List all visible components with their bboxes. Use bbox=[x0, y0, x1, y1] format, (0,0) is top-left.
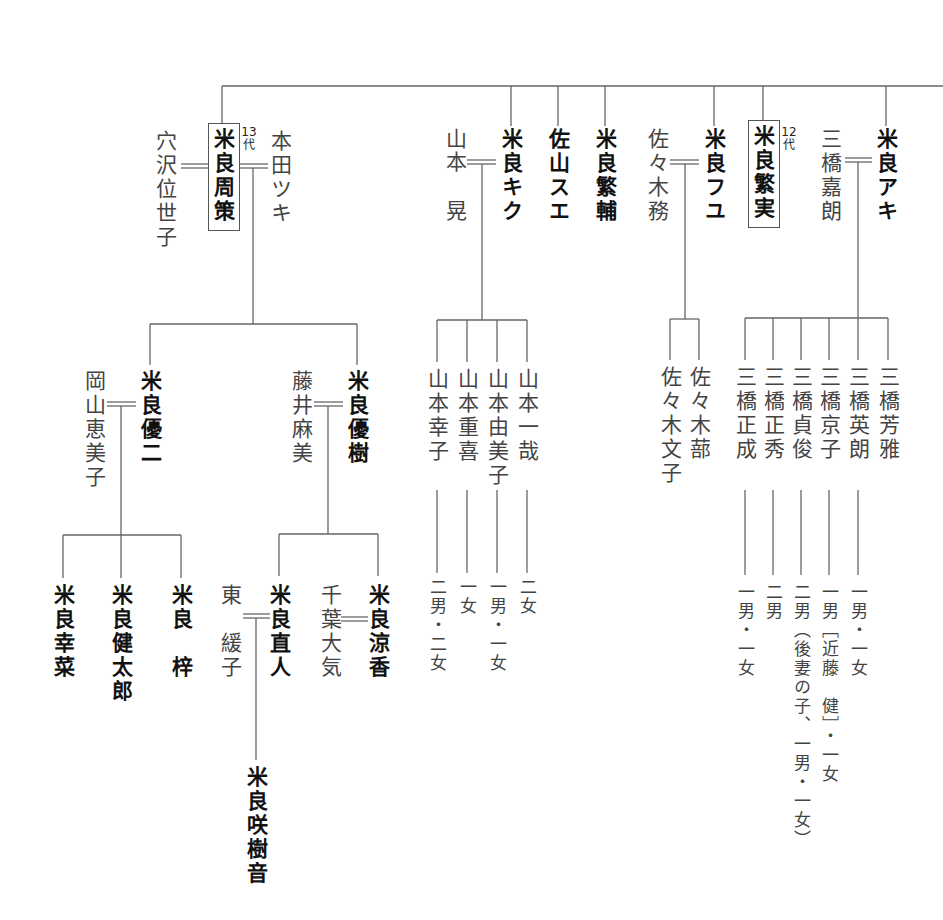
person-mera-shigesuke: 米良繁輔 bbox=[593, 128, 617, 224]
person-sasaki-tsutomu: 佐々木務 bbox=[645, 128, 669, 224]
person-honda-tsuki: 本田ツキ bbox=[268, 130, 292, 226]
person-yamamoto-akira: 山本 晃 bbox=[443, 128, 467, 223]
person-yamamoto-sachiko: 山本幸子 bbox=[425, 368, 449, 464]
person-mitsuhashi-yoshiro: 三橋嘉朗 bbox=[818, 128, 842, 224]
person-fujii-asami: 藤井麻美 bbox=[289, 370, 313, 466]
note-mitsuhashi-masanari: 一男・一女 bbox=[735, 583, 755, 678]
note-yamamoto-sachiko: 二男・二女 bbox=[427, 578, 447, 673]
person-mera-azusa: 米良 梓 bbox=[169, 584, 193, 680]
generation-label-12: 12代 bbox=[781, 126, 797, 152]
person-yamamoto-yumiko: 山本由美子 bbox=[485, 368, 509, 488]
person-yamamoto-kazuya: 山本一哉 bbox=[515, 368, 539, 464]
family-tree-chart: 穴沢位世子 米良周策 13代 本田ツキ 山本 晃 米良キク 佐山スエ 米良繁輔 … bbox=[0, 0, 943, 920]
person-mitsuhashi-masanari: 三橋正成 bbox=[733, 366, 757, 462]
person-mitsuhashi-masahide: 三橋正秀 bbox=[761, 366, 785, 462]
person-okayama-emiko: 岡山恵美子 bbox=[82, 370, 106, 490]
note-mitsuhashi-hideaki: 一男・一女 bbox=[848, 583, 868, 678]
person-mera-kentaro: 米良健太郎 bbox=[109, 584, 133, 704]
note-mitsuhashi-kyoko: 一男［近藤 健］・一女 bbox=[819, 583, 839, 784]
note-yamamoto-yumiko: 一男・一女 bbox=[487, 578, 507, 673]
person-azuma-yuruko: 東 緩子 bbox=[218, 584, 242, 680]
person-mera-aki: 米良アキ bbox=[874, 128, 898, 224]
person-mitsuhashi-sadatoshi: 三橋貞俊 bbox=[789, 366, 813, 462]
note-mitsuhashi-sadatoshi: 二男（後妻の子、一男・一女） bbox=[791, 583, 811, 849]
person-sasaki-shitomi: 佐々木蔀 bbox=[687, 366, 711, 462]
person-mera-yuki: 米良優樹 bbox=[345, 370, 369, 466]
note-mitsuhashi-masahide: 二男 bbox=[763, 583, 783, 621]
person-mera-yukina: 米良幸菜 bbox=[51, 584, 75, 680]
person-mera-shigezane: 米良繁実 bbox=[751, 125, 775, 221]
person-sayama-sue: 佐山スエ bbox=[546, 128, 570, 224]
person-mera-kiku: 米良キク bbox=[499, 128, 523, 224]
generation-label-13: 13代 bbox=[241, 126, 257, 152]
person-mera-fuyu: 米良フユ bbox=[702, 128, 726, 224]
person-anazawa-iyoko: 穴沢位世子 bbox=[153, 130, 177, 250]
note-yamamoto-shigeki: 一女 bbox=[457, 578, 477, 616]
person-mera-naoto: 米良直人 bbox=[267, 584, 291, 680]
person-mitsuhashi-hideaki: 三橋英朗 bbox=[846, 366, 870, 462]
person-sasaki-fumiko: 佐々木文子 bbox=[658, 366, 682, 486]
person-chiba-taiki: 千葉大気 bbox=[318, 584, 342, 680]
person-mera-shusaku: 米良周策 bbox=[211, 128, 235, 224]
person-yamamoto-shigeki: 山本重喜 bbox=[455, 368, 479, 464]
person-mera-yuji: 米良優二 bbox=[138, 370, 162, 466]
note-yamamoto-kazuya: 二女 bbox=[517, 578, 537, 616]
person-mera-sakine: 米良咲樹音 bbox=[244, 766, 268, 886]
person-mitsuhashi-yoshimasa: 三橋芳雅 bbox=[876, 366, 900, 462]
person-mera-ryoka: 米良涼香 bbox=[366, 584, 390, 680]
person-mitsuhashi-kyoko: 三橋京子 bbox=[817, 366, 841, 462]
